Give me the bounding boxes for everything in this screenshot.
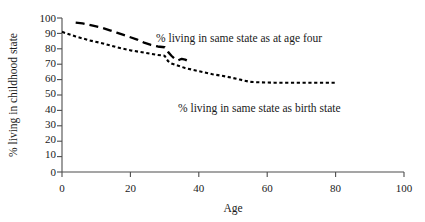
- y-axis: [57, 18, 62, 172]
- x-tick-label: 0: [59, 182, 65, 194]
- y-tick-label: 30: [45, 118, 57, 130]
- x-tick-label: 40: [193, 182, 205, 194]
- y-tick-label: 10: [45, 148, 57, 160]
- x-tick-label: 20: [125, 182, 137, 194]
- y-tick-labels: 100 90 80 70 60 50 40 30 20 10 0: [40, 12, 57, 178]
- x-axis: [62, 172, 404, 177]
- annotation-birth-state: % living in same state as birth state: [178, 102, 341, 115]
- line-chart: % living in childhood state 100 90 80 70…: [0, 0, 425, 222]
- y-tick-label: 40: [45, 103, 57, 115]
- y-tick-label: 100: [40, 12, 57, 24]
- x-tick-label: 100: [396, 182, 413, 194]
- y-tick-label: 90: [45, 27, 57, 39]
- y-tick-label: 80: [45, 42, 57, 54]
- x-axis-title: Age: [223, 202, 242, 215]
- y-tick-label: 0: [51, 166, 57, 178]
- y-tick-label: 70: [45, 57, 57, 69]
- y-tick-label: 50: [45, 87, 57, 99]
- x-tick-labels: 0 20 40 60 80 100: [59, 182, 413, 194]
- x-tick-label: 60: [262, 182, 274, 194]
- x-tick-label: 80: [330, 182, 342, 194]
- chart-figure: % living in childhood state 100 90 80 70…: [0, 0, 425, 222]
- y-tick-label: 20: [45, 133, 57, 145]
- y-tick-label: 60: [45, 72, 57, 84]
- y-axis-title: % living in childhood state: [7, 33, 20, 157]
- annotation-age-four: % living in same state as at age four: [156, 32, 322, 45]
